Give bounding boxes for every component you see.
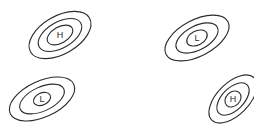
- high-label: H: [230, 94, 237, 104]
- low-label: L: [194, 33, 199, 43]
- high-label: H: [57, 30, 64, 40]
- background: [0, 0, 254, 137]
- low-label: L: [39, 94, 44, 104]
- pressure-systems-diagram: H L L H: [0, 0, 254, 137]
